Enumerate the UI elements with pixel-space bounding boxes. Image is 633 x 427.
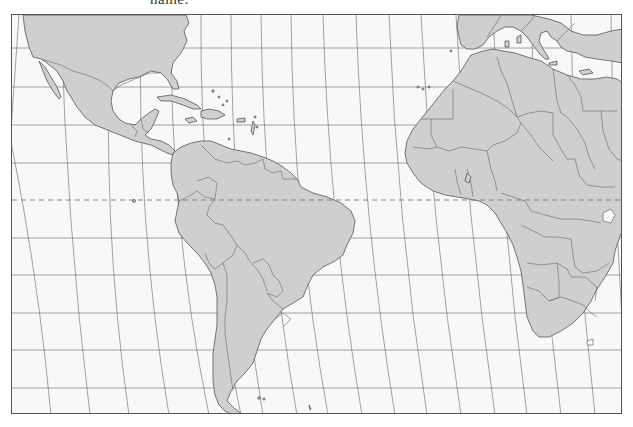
south-america <box>171 141 355 414</box>
north-america <box>23 15 189 155</box>
page-caption-fragment: name: <box>150 0 189 8</box>
map-canvas <box>12 15 622 414</box>
map-frame <box>11 14 622 414</box>
